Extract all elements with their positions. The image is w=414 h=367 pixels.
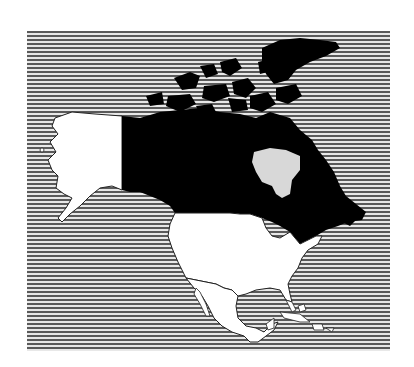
florida [286, 300, 296, 312]
yucatan [266, 318, 274, 330]
island [40, 148, 44, 152]
caribbean-islands [280, 304, 334, 332]
arctic-islands [146, 38, 340, 114]
north-america-map [0, 0, 414, 367]
region-alaska [48, 112, 122, 222]
